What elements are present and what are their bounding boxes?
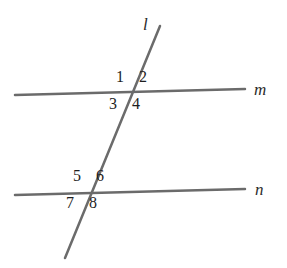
line-m: [15, 89, 245, 95]
line-l-transversal: [65, 26, 160, 258]
geometry-figure: l m n 1 2 3 4 5 6 7 8: [0, 0, 287, 268]
figure-canvas: [0, 0, 287, 268]
line-n: [15, 189, 245, 195]
